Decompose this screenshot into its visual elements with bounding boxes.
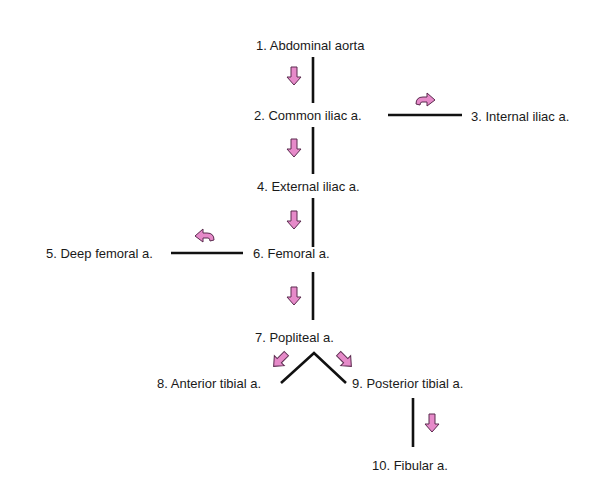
flow-arrow-2-3: [416, 93, 435, 106]
node-internal-iliac: 3. Internal iliac a.: [471, 109, 569, 124]
node-external-iliac: 4. External iliac a.: [257, 179, 360, 194]
node-anterior-tibial: 8. Anterior tibial a.: [157, 376, 261, 391]
flow-arrow-7-9: [334, 349, 357, 372]
flow-arrow-7-8: [269, 349, 292, 372]
arterial-branching-diagram: 1. Abdominal aorta 2. Common iliac a. 3.…: [0, 0, 611, 500]
node-femoral: 6. Femoral a.: [253, 246, 330, 261]
node-posterior-tibial: 9. Posterior tibial a.: [352, 376, 463, 391]
flow-arrow-1-2: [287, 67, 301, 85]
node-common-iliac: 2. Common iliac a.: [254, 108, 362, 123]
node-popliteal: 7. Popliteal a.: [255, 330, 334, 345]
node-abdominal-aorta: 1. Abdominal aorta: [256, 38, 364, 53]
flow-arrow-9-10: [425, 414, 439, 432]
flow-arrow-4-6: [287, 211, 301, 229]
node-fibular: 10. Fibular a.: [372, 458, 448, 473]
flow-arrow-6-7: [287, 287, 301, 305]
connector-7-8-9: [281, 353, 346, 383]
node-deep-femoral: 5. Deep femoral a.: [46, 246, 153, 261]
flow-arrow-6-5: [195, 229, 214, 242]
flow-arrow-2-4: [287, 139, 301, 157]
